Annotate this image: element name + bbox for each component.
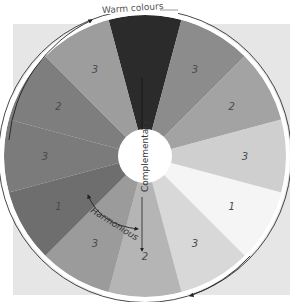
sector-label-10: 2	[55, 101, 61, 112]
sector-label-11: 3	[92, 64, 98, 75]
sector-label-7: 3	[92, 238, 98, 249]
sector-label-2: 2	[228, 101, 234, 112]
sector-label-3: 3	[242, 151, 248, 162]
colour-wheel-diagram: 32313231323 Warm colours Complementary H…	[0, 0, 290, 302]
sector-label-8: 1	[55, 201, 61, 212]
complementary-label: Complementary	[140, 119, 150, 192]
sector-label-9: 3	[42, 151, 48, 162]
sector-label-6: 2	[142, 251, 148, 262]
sector-label-4: 1	[228, 201, 234, 212]
sector-label-5: 3	[192, 238, 198, 249]
sector-label-1: 3	[192, 64, 198, 75]
